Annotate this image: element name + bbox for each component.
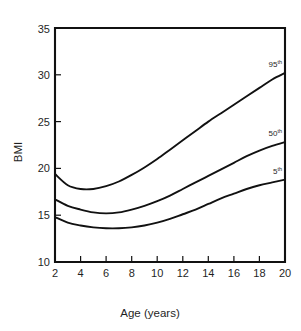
x-tick-label-20: 20 [279, 267, 291, 279]
x-axis-title: Age (years) [120, 307, 180, 319]
chart-canvas: 10 15 20 25 30 35 2 4 6 8 10 12 [0, 0, 301, 331]
y-tick-label-30: 30 [38, 69, 50, 81]
x-tick-label-14: 14 [202, 267, 214, 279]
y-tick-label-20: 20 [38, 162, 50, 174]
y-tick-label-35: 35 [38, 23, 50, 35]
y-tick-label-10: 10 [38, 256, 50, 268]
curve-label-50th-sup: th [277, 128, 282, 134]
x-tick-label-12: 12 [177, 267, 189, 279]
x-tick-label-16: 16 [228, 267, 240, 279]
y-axis-title: BMI [12, 142, 24, 162]
y-tick-label-15: 15 [38, 209, 50, 221]
x-tick-label-10: 10 [151, 267, 163, 279]
x-tick-label-8: 8 [129, 267, 135, 279]
curve-label-5th-sup: th [277, 166, 282, 172]
x-tick-label-6: 6 [103, 267, 109, 279]
curve-label-95th-sup: th [277, 59, 282, 65]
x-tick-label-4: 4 [78, 267, 84, 279]
x-tick-label-2: 2 [52, 267, 58, 279]
x-tick-label-18: 18 [253, 267, 265, 279]
bmi-for-age-percentile-chart: 10 15 20 25 30 35 2 4 6 8 10 12 [0, 0, 301, 331]
y-tick-label-25: 25 [38, 116, 50, 128]
